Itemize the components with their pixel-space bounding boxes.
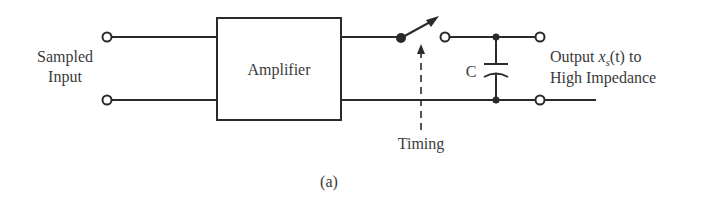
output-label-var: x [597, 48, 605, 65]
input-label-line2: Input [48, 68, 82, 86]
output-label-prefix: Output [550, 48, 598, 66]
output-terminal-top [536, 33, 545, 42]
switch-blade [401, 21, 432, 38]
sampling-switch [396, 16, 450, 43]
capacitor-label: C [466, 63, 477, 80]
input-label: Sampled Input [37, 48, 93, 86]
switch-blade-arrowhead-icon [426, 16, 439, 27]
sample-and-hold-diagram: Sampled Input Amplifier Timing C Output … [0, 0, 714, 204]
output-label-line1: Output xs(t) to [550, 48, 641, 68]
output-label-arg: (t) [610, 48, 625, 66]
junction-dot-top [493, 34, 500, 41]
input-label-line1: Sampled [37, 48, 93, 66]
input-terminal-top [103, 33, 112, 42]
hold-capacitor: C [466, 34, 508, 104]
junction-dot-bottom [493, 97, 500, 104]
output-terminal-bottom [536, 96, 545, 105]
timing-arrowhead-icon [417, 44, 425, 54]
output-label: Output xs(t) to High Impedance [550, 48, 656, 87]
amplifier-label: Amplifier [247, 61, 311, 79]
figure-caption: (a) [320, 173, 338, 191]
timing-label: Timing [398, 135, 445, 153]
switch-open-terminal [441, 33, 450, 42]
output-label-line2: High Impedance [550, 69, 656, 87]
input-terminal-bottom [103, 96, 112, 105]
output-label-suffix: to [625, 48, 641, 65]
